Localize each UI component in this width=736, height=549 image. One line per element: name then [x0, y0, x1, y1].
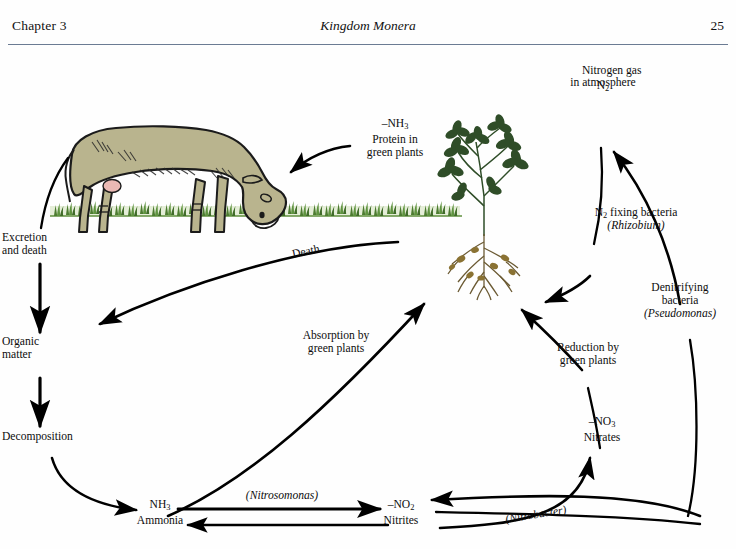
label-denitrifying-bacteria: Denitrifying bacteria	[628, 282, 732, 307]
nitrogen-cycle-diagram: Nitrogen gas in atmosphere N2 –NH3 Prote…	[0, 46, 736, 549]
label-absorption-green-plants: Absorption by green plants	[288, 330, 384, 355]
textbook-page: Chapter 3 Kingdom Monera 25	[0, 0, 736, 549]
label-protein-green-plants: –NH3 Protein in green plants	[340, 118, 450, 159]
label-ammonia: NH3 Ammonia	[128, 499, 192, 528]
label-n2: N2	[570, 80, 636, 96]
running-head: Chapter 3 Kingdom Monera 25	[0, 18, 736, 44]
label-nitrites: –NO2 Nitrites	[370, 499, 432, 528]
arrow-death-to-organic	[100, 242, 398, 324]
label-rhizobium: (Rhizobium)	[574, 220, 698, 233]
label-organic-matter: Organic matter	[2, 336, 74, 361]
label-reduction-green-plants: Reduction by green plants	[540, 342, 636, 367]
book-title: Kingdom Monera	[0, 18, 736, 34]
arrow-decomposition-to-ammonia	[52, 458, 136, 510]
label-nitrosomonas: (Nitrosomonas)	[222, 490, 342, 503]
label-excretion-and-death: Excretion and death	[2, 232, 86, 257]
arrow-cow-to-excretion	[41, 158, 68, 228]
header-rule	[8, 44, 728, 45]
label-pseudomonas: (Pseudomonas)	[628, 308, 732, 321]
label-decomposition: Decomposition	[2, 431, 100, 444]
label-nitrates: –NO3 Nitrates	[570, 416, 634, 445]
arrow-denitrify-lower	[688, 340, 697, 516]
page-number: 25	[711, 18, 725, 34]
arrow-fixing-bacteria-to-plant	[546, 276, 590, 302]
